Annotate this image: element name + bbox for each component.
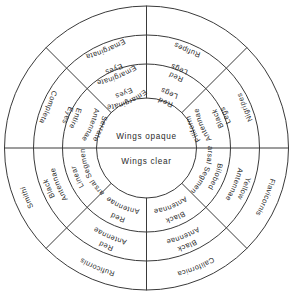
wheel-spoke-lines [5, 6, 289, 290]
sector-label-rufipes: Rufipes [172, 40, 201, 59]
key-wheel-svg: AntennaeSerrateEyesEmarginateLegsRedAnte… [0, 0, 293, 300]
sector-label-text: Rufipes [172, 40, 201, 59]
sector-label-smithi: Smithi [18, 186, 35, 211]
center-circle-group: Wings opaque Wings clear [116, 132, 177, 166]
center-bottom-label: Wings clear [121, 157, 171, 166]
sector-label-text: Completa [37, 90, 59, 126]
sector-label-text: Tarsal Segments [0, 0, 215, 196]
sector-label-antennae-red: Red [109, 211, 126, 225]
sector-label-completa: Completa [37, 90, 59, 126]
sector-label-text: Red [109, 211, 126, 225]
sector-label-text: Antennae [104, 195, 140, 217]
center-top-label: Wings opaque [116, 132, 177, 141]
sector-label-tarsal-segments-bilobed: Tarsal Segments [0, 0, 215, 196]
sector-label-antennae-red: Antennae [104, 195, 140, 217]
sector-label-text: Smithi [18, 186, 35, 211]
circular-key-diagram: AntennaeSerrateEyesEmarginateLegsRedAnte… [0, 0, 293, 300]
